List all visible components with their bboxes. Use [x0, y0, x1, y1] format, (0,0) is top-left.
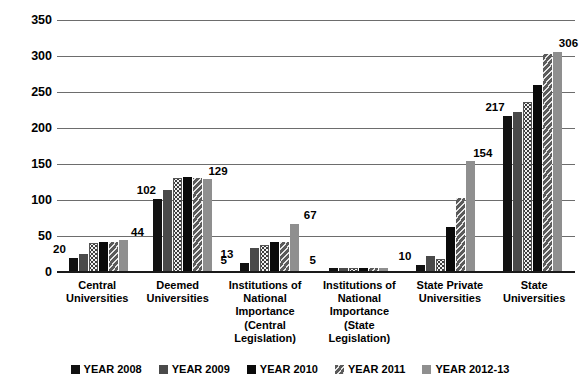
y-axis-tick-label: 100: [6, 194, 52, 207]
x-axis-category-label: StateUniversities: [493, 279, 575, 345]
bar-value-label: 217: [485, 102, 504, 114]
bar: [193, 178, 202, 272]
x-axis-category-line: Importance: [219, 305, 311, 318]
bar: [183, 177, 192, 272]
bar: [153, 199, 162, 272]
bar-group: 217306: [489, 20, 575, 272]
bar: [109, 242, 118, 272]
x-axis-category-line: Legislation): [219, 332, 311, 345]
x-axis-category-line: National: [313, 292, 405, 305]
legend-label: YEAR 2011: [348, 364, 405, 375]
x-axis-category-line: (Central: [219, 319, 311, 332]
legend-label: YEAR 2010: [260, 364, 318, 375]
bar: [553, 52, 562, 272]
y-axis-tick-label: 300: [6, 50, 52, 63]
x-axis-category-label: DeemedUniversities: [137, 279, 217, 345]
bar: [533, 85, 542, 272]
x-axis-category-label: Institutions ofNationalImportance(Centra…: [218, 279, 312, 345]
bar: [119, 240, 128, 272]
legend-swatch-icon: [247, 365, 256, 374]
bar-value-label: 102: [137, 185, 156, 197]
legend-item[interactable]: YEAR 2009: [159, 364, 230, 375]
y-axis-tick-label: 200: [6, 122, 52, 135]
x-axis-category-line: Central: [58, 279, 136, 292]
legend-item[interactable]: YEAR 2012-13: [422, 364, 509, 375]
bar: [456, 198, 465, 272]
bar: [89, 243, 98, 272]
bar-chart: 050100150200250300350 204410212913675510…: [0, 0, 580, 386]
x-axis-labels: CentralUniversitiesDeemedUniversitiesIns…: [57, 279, 575, 345]
bar: [69, 258, 78, 272]
x-axis-category-line: Importance: [313, 305, 405, 318]
legend-label: YEAR 2009: [172, 364, 230, 375]
x-axis-category-label: CentralUniversities: [57, 279, 137, 345]
bar-value-label: 5: [221, 255, 227, 267]
legend-label: YEAR 2012-13: [435, 364, 509, 375]
legend-item[interactable]: YEAR 2011: [335, 364, 405, 375]
bar: [203, 179, 212, 272]
y-axis-tick-label: 350: [6, 14, 52, 27]
x-axis-category-line: Legislation): [313, 332, 405, 345]
bar: [290, 224, 299, 272]
x-axis-category-line: Institutions of: [313, 279, 405, 292]
legend-item[interactable]: YEAR 2008: [71, 364, 142, 375]
bar: [523, 102, 532, 272]
bar-group: 10154: [403, 20, 490, 272]
bar: [513, 112, 522, 272]
x-axis-category-line: Universities: [494, 292, 574, 305]
bar: [270, 242, 279, 272]
x-axis-category-line: Universities: [138, 292, 216, 305]
legend-swatch-icon: [335, 365, 344, 374]
y-axis-tick-label: 250: [6, 86, 52, 99]
x-axis-category-line: Universities: [58, 292, 136, 305]
bar: [446, 227, 455, 272]
y-axis-tick-label: 50: [6, 230, 52, 243]
legend-item[interactable]: YEAR 2010: [247, 364, 318, 375]
legend-label: YEAR 2008: [84, 364, 142, 375]
bar: [503, 116, 512, 272]
y-axis-tick-label: 0: [6, 266, 52, 279]
x-axis-category-line: National: [219, 292, 311, 305]
x-axis-category-label: State PrivateUniversities: [407, 279, 494, 345]
bar: [173, 178, 182, 272]
bar: [260, 245, 269, 272]
x-axis-category-line: State Private: [408, 279, 493, 292]
legend-swatch-icon: [71, 365, 80, 374]
x-axis-category-line: (State: [313, 319, 405, 332]
bar: [250, 248, 259, 272]
bar-group: 102129: [141, 20, 225, 272]
bar: [280, 242, 289, 272]
legend-swatch-icon: [159, 365, 168, 374]
bar-groups: 204410212913675510154217306: [57, 20, 575, 272]
bar-value-label: 306: [559, 38, 578, 50]
x-axis-category-line: Universities: [408, 292, 493, 305]
x-axis-category-line: State: [494, 279, 574, 292]
bar: [543, 54, 552, 272]
bar-group: 13675: [225, 20, 314, 272]
x-axis-category-label: Institutions ofNationalImportance(StateL…: [312, 279, 406, 345]
y-axis-tick-label: 150: [6, 158, 52, 171]
y-axis: 050100150200250300350: [0, 20, 52, 272]
x-axis-baseline: [57, 271, 575, 273]
bar: [99, 242, 108, 272]
bar-value-label: 5: [310, 255, 316, 267]
bar: [79, 254, 88, 272]
legend-swatch-icon: [422, 365, 431, 374]
bar: [466, 161, 475, 272]
bar: [163, 190, 172, 272]
x-axis-category-line: Deemed: [138, 279, 216, 292]
bar-value-label: 10: [399, 251, 412, 263]
x-axis-category-line: Institutions of: [219, 279, 311, 292]
bar: [426, 256, 435, 272]
chart-legend: YEAR 2008YEAR 2009YEAR 2010YEAR 2011YEAR…: [0, 364, 580, 375]
bar-group: 2044: [57, 20, 141, 272]
bar-group: 5: [314, 20, 403, 272]
bar-value-label: 20: [53, 244, 66, 256]
